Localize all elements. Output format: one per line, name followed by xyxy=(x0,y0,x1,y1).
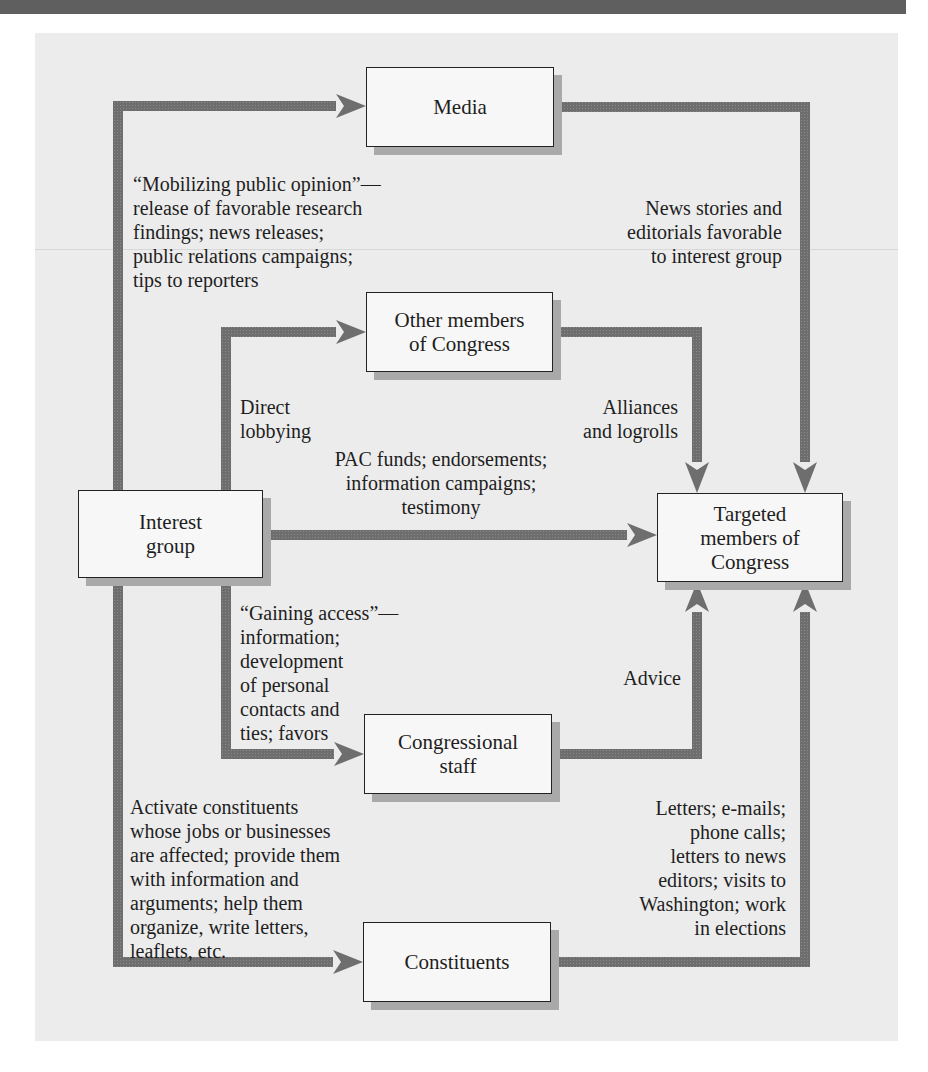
arrowhead-icon xyxy=(685,462,709,493)
node-constituents-label: Constituents xyxy=(404,950,509,974)
edge-label-activate-constituents: Activate constituents whose jobs or busi… xyxy=(130,795,340,963)
node-interest-group: Interest group xyxy=(78,490,263,578)
node-targeted-members: Targeted members of Congress xyxy=(657,493,843,582)
arrowhead-icon xyxy=(627,523,657,547)
edge-label-advice: Advice xyxy=(580,666,681,690)
node-interest-group-label: Interest group xyxy=(139,510,202,558)
arrowhead-icon xyxy=(334,742,364,766)
edge-label-direct-lobbying: Direct lobbying xyxy=(240,395,311,443)
arrowhead-icon xyxy=(336,94,366,118)
node-congressional-staff-label: Congressional staff xyxy=(398,730,518,778)
node-media: Media xyxy=(366,67,554,147)
node-targeted-members-label: Targeted members of Congress xyxy=(700,502,800,574)
edge-label-pac-funds: PAC funds; endorsements; information cam… xyxy=(300,447,582,519)
edge-label-alliances: Alliances and logrolls xyxy=(560,395,678,443)
edge-label-news-stories: News stories and editorials favorable to… xyxy=(600,196,782,268)
arrowhead-icon xyxy=(685,582,709,612)
node-media-label: Media xyxy=(433,95,487,119)
arrowhead-icon xyxy=(793,462,817,493)
node-other-members-label: Other members of Congress xyxy=(394,308,524,356)
arrowhead-icon xyxy=(336,320,366,344)
node-other-members: Other members of Congress xyxy=(366,292,553,372)
arrowhead-icon xyxy=(793,582,817,612)
edge-label-letters: Letters; e-mails; phone calls; letters t… xyxy=(600,796,786,940)
edge-label-gaining-access: “Gaining access”— information; developme… xyxy=(240,601,398,745)
edge-label-mobilizing-public-opinion: “Mobilizing public opinion”— release of … xyxy=(133,172,381,292)
node-constituents: Constituents xyxy=(363,922,551,1002)
